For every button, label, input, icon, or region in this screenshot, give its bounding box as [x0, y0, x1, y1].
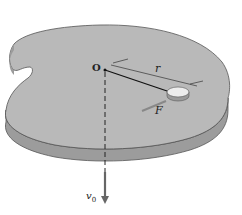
velocity-label: v0 [86, 190, 96, 204]
velocity-arrowhead [101, 196, 109, 204]
plate-top [5, 25, 229, 149]
radius-label: r [155, 62, 160, 75]
diagram-canvas: O r F v0 [0, 0, 242, 215]
puck-top [167, 87, 189, 97]
origin-label: O [92, 62, 101, 73]
force-label: F [155, 104, 163, 117]
velocity-subscript: 0 [92, 196, 96, 204]
origin-point [104, 69, 107, 72]
platform-diagram [0, 0, 242, 215]
